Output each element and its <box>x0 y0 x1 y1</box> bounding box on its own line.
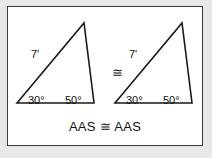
left-triangle-shape <box>10 15 102 111</box>
left-triangle-angle-left-label: 30° <box>28 95 45 106</box>
right-triangle-angle-left-label: 30° <box>126 95 143 106</box>
caption-row: AAS ≅ AAS <box>8 117 202 135</box>
right-triangle: 7' 30° 50° <box>108 15 200 111</box>
left-triangle-side-label: 7' <box>31 49 39 60</box>
right-triangle-shape <box>108 15 200 111</box>
left-triangle: 7' 30° 50° <box>10 15 102 111</box>
left-triangle-angle-right-label: 50° <box>65 95 82 106</box>
right-triangle-side-label: 7' <box>129 49 137 60</box>
right-triangle-angle-right-label: 50° <box>163 95 180 106</box>
diagram-area: 7' 30° 50° ≅ 7' 30° 50° <box>8 7 202 111</box>
figure-caption: AAS ≅ AAS <box>69 119 141 134</box>
figure-panel: 7' 30° 50° ≅ 7' 30° 50° AAS ≅ AAS <box>7 6 203 146</box>
